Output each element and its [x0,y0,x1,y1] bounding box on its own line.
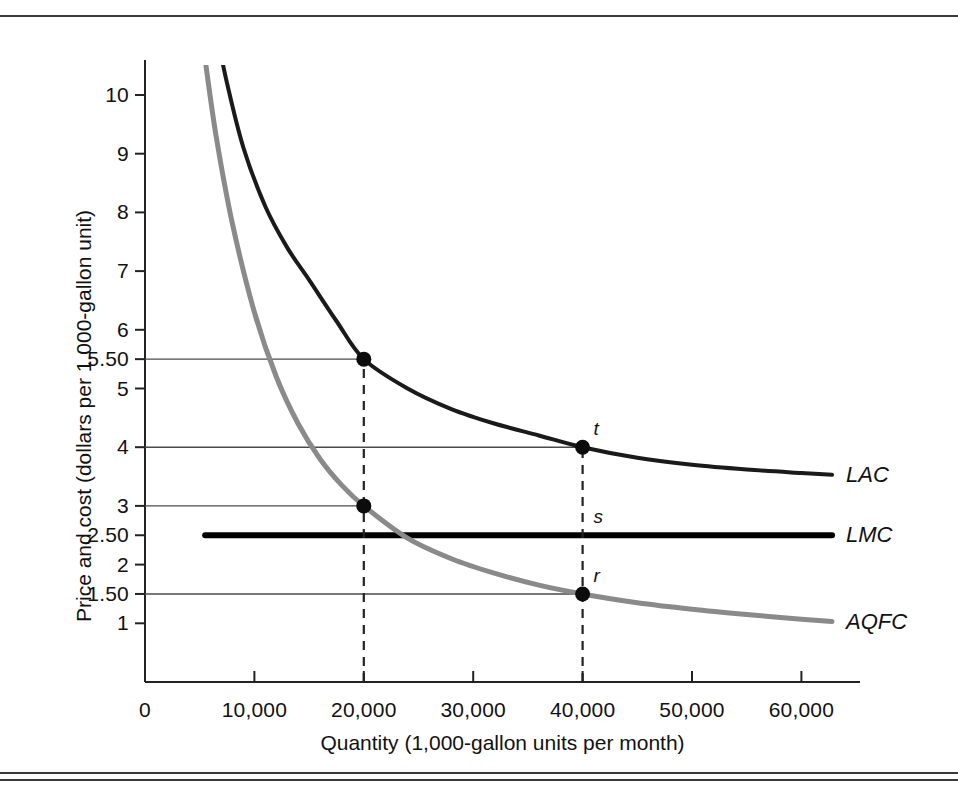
y-tick-label: 2 [0,553,129,577]
x-tick-label: 0 [139,698,151,722]
curve-label-lac: LAC [846,462,889,488]
x-tick-label: 60,000 [769,698,834,722]
y-tick-label: 8 [0,200,129,224]
y-tick-label: 5 [0,377,129,401]
y-tick-label: 3 [0,494,129,518]
curve-label-aqfc: AQFC [846,609,907,635]
data-point-p1 [356,352,371,367]
y-tick-label: 1.50 [0,582,129,606]
y-tick-label: 4 [0,435,129,459]
y-tick-label: 6 [0,318,129,342]
y-tick-label: 10 [0,83,129,107]
curve-lac [216,30,832,474]
x-tick-label: 50,000 [659,698,724,722]
y-tick-label: 2.50 [0,523,129,547]
y-tick-label: 7 [0,259,129,283]
x-tick-label: 20,000 [331,698,396,722]
x-tick-label: 40,000 [550,698,615,722]
x-tick-label: 10,000 [222,698,287,722]
y-tick-label: 1 [0,611,129,635]
y-tick-label: 5.50 [0,347,129,371]
point-label-t: t [594,418,599,440]
annotation-label-s: s [594,506,604,528]
y-axis-title: Price and cost (dollars per 1,000-gallon… [72,210,96,622]
figure-container: 11.5022.503455.50678910 010,00020,00030,… [0,0,958,795]
data-point-t [575,440,590,455]
curve-label-lmc: LMC [846,522,892,548]
data-point-r [575,586,590,601]
data-point-p2 [356,498,371,513]
x-axis-title: Quantity (1,000-gallon units per month) [320,731,684,755]
point-label-r: r [594,565,600,587]
x-tick-label: 30,000 [440,698,505,722]
plot-area [0,0,958,795]
y-tick-label: 9 [0,142,129,166]
